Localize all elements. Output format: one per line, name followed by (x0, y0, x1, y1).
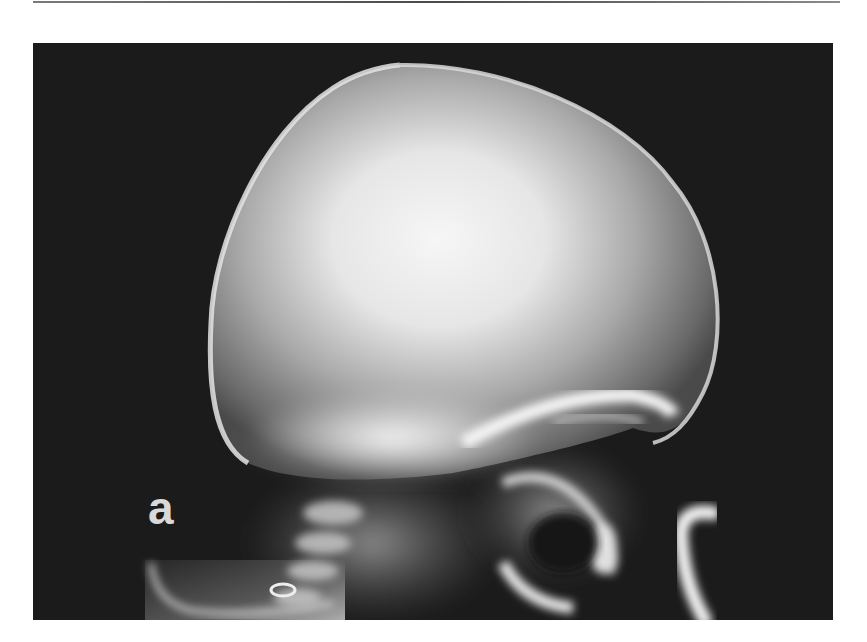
top-rule-divider (33, 1, 840, 3)
figure-panel-label: a (148, 485, 174, 531)
xray-figure-panel: a (33, 43, 833, 620)
